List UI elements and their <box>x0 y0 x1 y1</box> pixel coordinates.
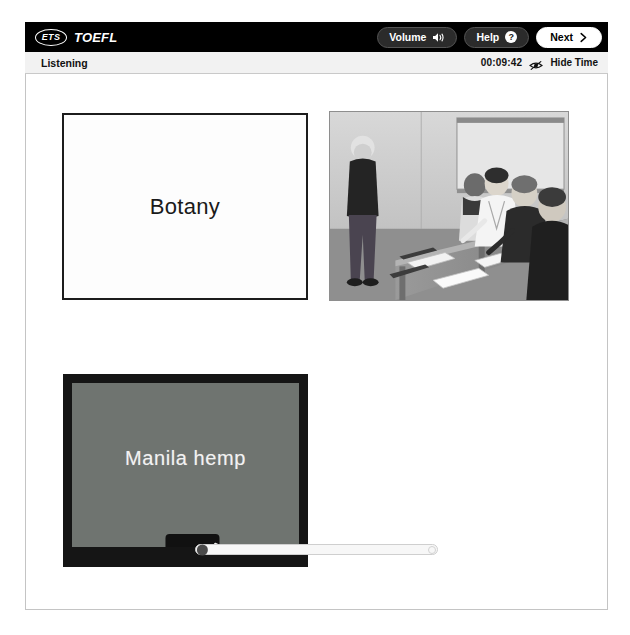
audio-progress-knob[interactable] <box>197 544 208 555</box>
hide-time-button[interactable]: Hide Time <box>550 57 598 68</box>
eye-slash-icon[interactable] <box>529 57 543 68</box>
audio-progress-bar[interactable] <box>195 544 438 555</box>
audio-progress-end-cap <box>428 546 436 554</box>
audio-progress-row <box>26 544 607 555</box>
timer-group: 00:09:42 Hide Time <box>481 57 598 68</box>
classroom-photo <box>329 111 569 301</box>
listening-stimulus-stage: Botany <box>25 74 608 610</box>
lecture-title-slide: Botany <box>62 113 308 300</box>
question-mark-icon: ? <box>505 31 517 43</box>
lecture-title-text: Botany <box>150 194 220 220</box>
speaker-icon <box>432 32 445 43</box>
volume-button[interactable]: Volume <box>377 27 457 48</box>
help-button-label: Help <box>476 31 499 43</box>
chalkboard-text: Manila hemp <box>125 447 246 470</box>
ets-toefl-logo: ETS TOEFL <box>35 29 117 46</box>
chalkboard: Manila hemp <box>63 374 308 567</box>
header-actions: Volume Help ? Next <box>377 27 602 48</box>
section-title: Listening <box>41 57 88 69</box>
toefl-wordmark: TOEFL <box>74 30 117 45</box>
countdown-timer: 00:09:42 <box>481 57 523 68</box>
chalkboard-surface: Manila hemp <box>72 383 299 547</box>
toefl-test-window: ETS TOEFL Volume Help ? Next <box>25 22 608 612</box>
help-button[interactable]: Help ? <box>464 27 529 48</box>
next-button-label: Next <box>550 31 573 43</box>
section-status-bar: Listening 00:09:42 Hide Time <box>25 52 608 74</box>
chevron-right-icon <box>579 32 588 43</box>
app-header: ETS TOEFL Volume Help ? Next <box>25 22 608 52</box>
ets-logo-icon: ETS <box>35 29 67 46</box>
next-button[interactable]: Next <box>536 27 602 48</box>
volume-button-label: Volume <box>389 31 426 43</box>
